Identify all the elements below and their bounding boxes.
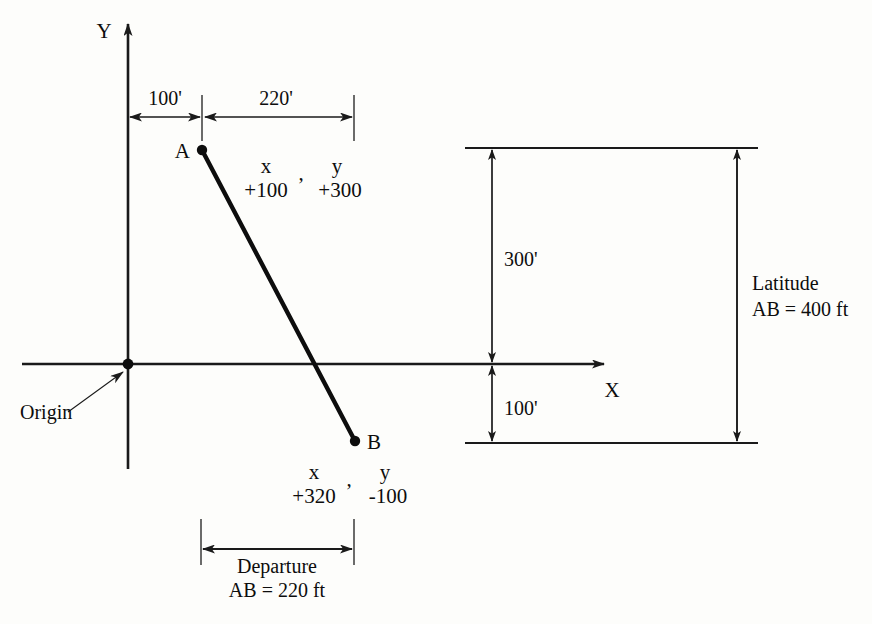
point-b-coord-header-y: y bbox=[380, 460, 391, 484]
point-a-coord-value-y: +300 bbox=[318, 178, 361, 202]
latitude-callout-title: Latitude bbox=[752, 272, 819, 294]
point-b-coord-separator: , bbox=[346, 467, 351, 491]
dimension-label-departure-run: 220' bbox=[259, 87, 293, 109]
dimension-label-above-axis: 300' bbox=[504, 248, 538, 270]
diagram-svg: Y X Origin 100' 220' A bbox=[0, 0, 872, 624]
point-a-label: A bbox=[175, 139, 191, 163]
origin-callout: Origin bbox=[20, 372, 123, 424]
figure-canvas: Y X Origin 100' 220' A bbox=[0, 0, 872, 624]
point-a-coord-separator: , bbox=[298, 161, 303, 185]
dimension-label-below-axis: 100' bbox=[504, 397, 538, 419]
point-b-label: B bbox=[367, 430, 381, 454]
dimension-label-offset-to-a: 100' bbox=[148, 87, 182, 109]
point-a-coord-header-x: x bbox=[261, 154, 272, 178]
x-axis-label: X bbox=[604, 378, 619, 402]
departure-callout: Departure AB = 220 ft bbox=[201, 519, 354, 601]
point-a-dot bbox=[197, 145, 207, 155]
point-b-dot bbox=[350, 436, 360, 446]
point-a-coord-header-y: y bbox=[332, 154, 343, 178]
point-b-coord-value-x: +320 bbox=[292, 484, 335, 508]
departure-callout-value: AB = 220 ft bbox=[229, 579, 326, 601]
latitude-callout: Latitude AB = 400 ft bbox=[737, 150, 849, 441]
vertical-dimension-group: 300' 100' bbox=[492, 150, 538, 441]
y-axis-label: Y bbox=[96, 19, 111, 43]
point-b-coord-value-y: -100 bbox=[369, 484, 408, 508]
point-a-coord-value-x: +100 bbox=[244, 178, 287, 202]
departure-callout-title: Departure bbox=[237, 555, 317, 578]
origin-leader-line bbox=[68, 372, 123, 412]
origin-label: Origin bbox=[20, 401, 72, 424]
latitude-callout-value: AB = 400 ft bbox=[752, 298, 849, 320]
point-b-coord-header-x: x bbox=[309, 460, 320, 484]
point-a-coordinates: x , y +100 +300 bbox=[244, 154, 361, 202]
horizontal-dimension-group: 100' 220' bbox=[130, 87, 354, 141]
origin-point-dot bbox=[123, 359, 134, 370]
point-b-coordinates: x , y +320 -100 bbox=[292, 460, 407, 508]
